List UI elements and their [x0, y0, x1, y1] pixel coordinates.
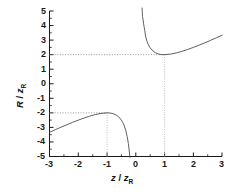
- y-tick-label-4: 4: [41, 21, 46, 30]
- y-axis-title-separator: /: [14, 93, 25, 101]
- y-tick-label--2: -2: [37, 108, 45, 117]
- x-axis-title-separator: /: [116, 172, 124, 183]
- y-tick-label--5: -5: [37, 152, 45, 161]
- x-tick-label-3: 3: [219, 160, 224, 169]
- y-tick-label-3: 3: [41, 36, 46, 45]
- y-tick-label-5: 5: [41, 7, 46, 16]
- y-tick-label-0: 0: [41, 79, 46, 88]
- x-tick-label--3: -3: [45, 160, 53, 169]
- y-tick-label-2: 2: [41, 50, 46, 59]
- y-tick-label--3: -3: [37, 123, 45, 132]
- y-axis-title: R / zR: [14, 84, 27, 108]
- x-axis-title: z / zR: [111, 172, 133, 185]
- y-tick-label--1: -1: [37, 94, 45, 103]
- y-axis-title-subscript: R: [20, 84, 27, 89]
- maximum-guide-lines: [50, 113, 108, 157]
- x-tick-label-0: 0: [133, 160, 138, 169]
- chart-figure: -3 -2 -1 0 1 2 3 5 4 3 2 1 0 -1 -2 -3 -4…: [0, 0, 236, 192]
- curve-negative-branch: [50, 113, 130, 158]
- x-axis-title-subscript: R: [128, 178, 133, 185]
- minimum-guide-lines: [50, 55, 165, 157]
- y-tick-label--4: -4: [37, 137, 45, 146]
- x-tick-label--2: -2: [74, 160, 82, 169]
- y-axis-title-base: z: [14, 88, 25, 93]
- x-tick-label-1: 1: [162, 160, 167, 169]
- plot-axes: [49, 11, 222, 157]
- radius-of-curvature-plot: [0, 0, 236, 192]
- x-major-ticks: [50, 153, 223, 157]
- data-curves: [50, 8, 223, 157]
- curve-positive-branch: [142, 8, 222, 55]
- x-tick-label-2: 2: [191, 160, 196, 169]
- x-tick-label--1: -1: [103, 160, 111, 169]
- y-axis-title-variable: R: [14, 101, 25, 108]
- y-tick-label-1: 1: [41, 65, 46, 74]
